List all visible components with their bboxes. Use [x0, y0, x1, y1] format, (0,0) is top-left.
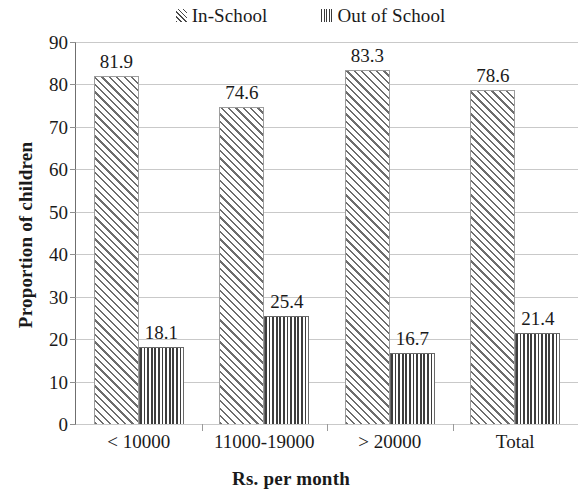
x-axis-category-label: 11000-19000: [214, 432, 315, 451]
y-axis-tick-label: 50: [28, 202, 68, 221]
y-axis-tick-labels: 0102030405060708090: [28, 0, 68, 499]
y-axis-tick-mark: [70, 424, 76, 425]
y-axis-tick-label: 10: [28, 372, 68, 391]
x-axis-category-label: < 10000: [107, 432, 170, 451]
x-axis-category-label: Total: [496, 432, 535, 451]
bar-value-label: 16.7: [396, 329, 429, 348]
bar-value-label: 78.6: [476, 66, 509, 85]
bar-value-label: 21.4: [521, 309, 554, 328]
legend-label-in-school: In-School: [192, 6, 268, 25]
legend-entry-out-of-school: Out of School: [321, 6, 445, 25]
x-axis-tick-mark: [453, 424, 454, 431]
chart-legend: In-School Out of School: [0, 2, 581, 28]
y-axis-tick-mark: [70, 127, 76, 128]
y-axis-tick-mark: [70, 42, 76, 43]
y-axis-tick-label: 70: [28, 117, 68, 136]
y-axis-tick-label: 0: [28, 415, 68, 434]
y-axis-tick-mark: [70, 339, 76, 340]
bar-value-label: 81.9: [100, 52, 133, 71]
y-axis-tick-label: 90: [28, 33, 68, 52]
x-axis-tick-mark: [327, 424, 328, 431]
bar-value-label: 25.4: [270, 292, 303, 311]
y-axis-tick-label: 30: [28, 287, 68, 306]
x-axis-category-label: > 20000: [358, 432, 421, 451]
y-axis-line: [75, 42, 76, 425]
bar-in-school: [345, 70, 390, 424]
bar-chart: In-School Out of School Proportion of ch…: [0, 0, 581, 499]
y-axis-tick-mark: [70, 382, 76, 383]
bar-value-label: 83.3: [351, 46, 384, 65]
bar-value-label: 18.1: [145, 323, 178, 342]
bar-out-of-school: [390, 353, 435, 424]
legend-label-out-of-school: Out of School: [337, 6, 445, 25]
y-axis-tick-mark: [70, 254, 76, 255]
vertical-lines-swatch-icon: [321, 9, 332, 22]
y-axis-tick-label: 40: [28, 245, 68, 264]
diagonal-hatch-swatch-icon: [176, 9, 187, 22]
bar-out-of-school: [515, 333, 560, 424]
y-axis-tick-mark: [70, 297, 76, 298]
y-axis-tick-label: 80: [28, 75, 68, 94]
plot-area: 81.918.174.625.483.316.778.621.4: [76, 42, 578, 424]
bar-out-of-school: [139, 347, 184, 424]
y-axis-tick-label: 60: [28, 160, 68, 179]
y-axis-tick-mark: [70, 84, 76, 85]
legend-entry-in-school: In-School: [176, 6, 268, 25]
y-axis-tick-mark: [70, 169, 76, 170]
bar-in-school: [94, 76, 139, 424]
bar-value-label: 74.6: [225, 83, 258, 102]
bar-out-of-school: [264, 316, 309, 424]
x-axis-title: Rs. per month: [76, 468, 506, 490]
y-axis-tick-label: 20: [28, 330, 68, 349]
bar-in-school: [219, 107, 264, 424]
gridline: [76, 42, 578, 43]
bar-in-school: [470, 90, 515, 424]
x-axis-tick-mark: [202, 424, 203, 431]
y-axis-tick-mark: [70, 212, 76, 213]
